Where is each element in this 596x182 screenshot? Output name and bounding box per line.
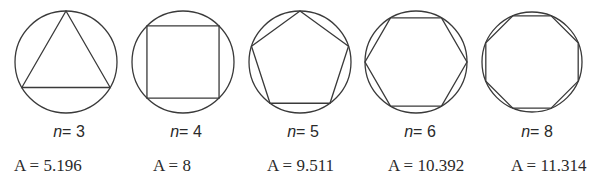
inscribed-octagon (486, 16, 578, 108)
circumcircle (249, 11, 351, 113)
circumcircle (15, 11, 117, 113)
area-label: A = 8 (153, 156, 191, 175)
figure-item-n4: n= 4 A = 8 (132, 11, 234, 175)
polygon-figure: n= 3 A = 5.196 n= 4 A = 8 n= 5 A = 9.511… (0, 0, 596, 182)
n-label: n= 6 (404, 123, 436, 140)
circumcircle (365, 11, 467, 113)
area-label: A = 5.196 (14, 156, 82, 175)
figure-item-n5: n= 5 A = 9.511 (249, 11, 351, 175)
figure-item-n8: n= 8 A = 11.314 (482, 12, 587, 175)
n-label: n= 4 (170, 123, 202, 140)
n-label: n= 5 (287, 123, 319, 140)
n-label: n= 3 (53, 123, 85, 140)
figure-item-n6: n= 6 A = 10.392 (365, 11, 467, 175)
area-label: A = 9.511 (267, 156, 334, 175)
inscribed-triangle (22, 11, 110, 88)
figure-item-n3: n= 3 A = 5.196 (14, 11, 117, 175)
inscribed-square (147, 26, 219, 98)
inscribed-hexagon (365, 18, 467, 106)
n-label: n= 8 (521, 123, 553, 140)
area-label: A = 11.314 (511, 156, 587, 175)
area-label: A = 10.392 (388, 156, 464, 175)
circumcircle (482, 12, 582, 112)
inscribed-pentagon (252, 11, 349, 103)
